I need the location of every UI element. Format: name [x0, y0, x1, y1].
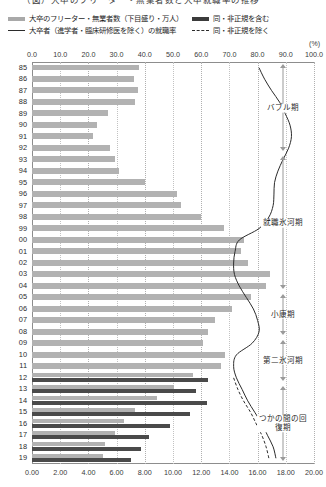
top-axis-tick: 70.0 — [222, 50, 236, 59]
line-solid-icon — [8, 30, 25, 31]
top-axis-tick: 20.0 — [81, 50, 95, 59]
top-axis-tick: 0.0 — [27, 50, 37, 59]
year-label: 12 — [19, 374, 27, 381]
top-axis-ticks: 0.010.020.030.040.050.060.070.080.090.01… — [0, 50, 326, 61]
year-label: 99 — [19, 225, 27, 232]
chart-title-strip: （図）大卒のフリーター・無業者数と大卒就職率の推移 — [0, 0, 326, 10]
year-label: 17 — [19, 432, 27, 439]
legend-item-line-dashed: 同・非正規を除く — [192, 25, 269, 37]
year-label: 16 — [19, 420, 27, 427]
era-arrow-down-icon — [280, 457, 286, 461]
year-label: 08 — [19, 328, 27, 335]
year-label: 00 — [19, 236, 27, 243]
bottom-axis-tick: 18.00 — [277, 468, 295, 477]
legend-label-line-dashed: 同・非正規を除く — [213, 26, 269, 35]
bottom-axis-tick: 20.00 — [305, 468, 323, 477]
year-label: 02 — [19, 259, 27, 266]
chart-legend: 大卒のフリーター・無業者数（下目盛り・万人） 大卒者（進学者・臨床研修医を除く）… — [0, 12, 326, 38]
year-label: 11 — [19, 363, 27, 370]
year-label: 92 — [19, 144, 27, 151]
year-label: 19 — [19, 455, 27, 462]
top-axis-tick: 60.0 — [194, 50, 208, 59]
top-axis-tick: 30.0 — [110, 50, 124, 59]
legend-item-line-solid: 大卒者（進学者・臨床研修医を除く）の就職率 — [8, 25, 176, 37]
top-axis-tick: 80.0 — [251, 50, 265, 59]
era-annotations: バブル期就職氷河期小康期第二氷河期つかの間の回復期 — [240, 62, 326, 464]
year-label: 18 — [19, 443, 27, 450]
year-label: 95 — [19, 179, 27, 186]
year-label: 90 — [19, 121, 27, 128]
year-label: 14 — [19, 397, 27, 404]
legend-label-bar-light: 大卒のフリーター・無業者数（下目盛り・万人） — [29, 14, 183, 23]
top-axis-tick: 40.0 — [138, 50, 152, 59]
year-label: 03 — [19, 271, 27, 278]
top-axis-tick: 100.0 — [305, 50, 323, 59]
bottom-axis-tick: 6.00 — [110, 468, 124, 477]
bar-swatch-dark-icon — [192, 17, 209, 21]
top-axis-unit: (%) — [309, 40, 320, 47]
era-label: 第二氷河期 — [261, 356, 305, 365]
bottom-axis-tick: 16.00 — [249, 468, 267, 477]
year-label: 05 — [19, 294, 27, 301]
bottom-axis-tick: 4.00 — [81, 468, 95, 477]
legend-label-bar-dark: 同・非正規を含む — [213, 14, 269, 23]
top-axis-tick: 10.0 — [53, 50, 67, 59]
bottom-axis-tick: 12.00 — [192, 468, 210, 477]
era-arrow-down-icon — [280, 377, 286, 381]
top-axis-tick: 50.0 — [166, 50, 180, 59]
era-arrow-down-icon — [280, 147, 286, 151]
page-title: （図）大卒のフリーター・無業者数と大卒就職率の推移 — [22, 0, 260, 5]
era-arrow-down-icon — [280, 285, 286, 289]
year-label: 94 — [19, 167, 27, 174]
year-label: 07 — [19, 317, 27, 324]
bottom-axis-tick: 10.00 — [164, 468, 182, 477]
year-label: 04 — [19, 282, 27, 289]
year-axis-labels: 8586878889909192939495969798990001020304… — [0, 62, 30, 464]
era-label: 就職氷河期 — [261, 218, 305, 227]
bottom-axis-tick: 14.00 — [220, 468, 238, 477]
line-dashed-icon — [192, 30, 209, 31]
year-label: 96 — [19, 190, 27, 197]
year-label: 93 — [19, 156, 27, 163]
bottom-axis-tick: 8.00 — [138, 468, 152, 477]
year-label: 13 — [19, 386, 27, 393]
year-label: 01 — [19, 248, 27, 255]
year-label: 98 — [19, 213, 27, 220]
legend-label-line-solid: 大卒者（進学者・臨床研修医を除く）の就職率 — [29, 26, 176, 35]
era-label: つかの間の回復期 — [257, 415, 309, 432]
era-label: バブル期 — [265, 104, 301, 113]
year-label: 89 — [19, 110, 27, 117]
bar-swatch-light-icon — [8, 17, 25, 21]
year-label: 15 — [19, 409, 27, 416]
year-label: 06 — [19, 305, 27, 312]
bottom-axis-tick: 0.00 — [25, 468, 39, 477]
year-label: 87 — [19, 87, 27, 94]
year-label: 85 — [19, 64, 27, 71]
year-label: 91 — [19, 133, 27, 140]
era-arrow-down-icon — [280, 331, 286, 335]
year-label: 88 — [19, 98, 27, 105]
top-axis-tick: 90.0 — [279, 50, 293, 59]
year-label: 97 — [19, 202, 27, 209]
bottom-axis-ticks: 0.002.004.006.008.0010.0012.0014.0016.00… — [0, 468, 326, 480]
year-label: 09 — [19, 340, 27, 347]
legend-item-bar-light: 大卒のフリーター・無業者数（下目盛り・万人） — [8, 13, 183, 25]
legend-item-bar-dark: 同・非正規を含む — [192, 13, 269, 25]
year-label: 86 — [19, 76, 27, 83]
era-label: 小康期 — [269, 310, 297, 319]
bottom-axis-tick: 2.00 — [53, 468, 67, 477]
year-label: 10 — [19, 351, 27, 358]
